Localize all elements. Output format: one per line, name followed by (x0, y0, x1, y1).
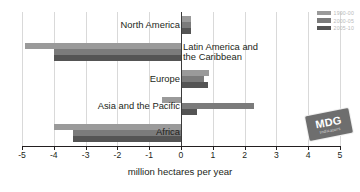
x-axis-tick-label: -1 (145, 150, 153, 160)
x-axis-tick (149, 146, 150, 150)
x-axis-tick-label: -5 (18, 150, 26, 160)
legend-swatch (317, 18, 331, 23)
x-axis-tick (276, 146, 277, 150)
x-axis-tick (54, 146, 55, 150)
category-label: Africa (0, 127, 180, 138)
x-axis-tick (117, 146, 118, 150)
bar (181, 109, 197, 115)
x-axis-tick (86, 146, 87, 150)
x-axis-tick (340, 146, 341, 150)
x-axis-tick (181, 146, 182, 150)
legend-item: 2000-05 (317, 18, 354, 24)
legend: 1990-002000-052005-10 (317, 10, 354, 31)
legend-label: 2000-05 (334, 18, 354, 24)
x-axis-tick (308, 146, 309, 150)
category-label: Latin America and the Caribbean (183, 42, 258, 63)
x-axis-tick-label: -3 (82, 150, 90, 160)
x-axis-tick-label: 2 (242, 150, 247, 160)
x-axis-tick-label: 0 (179, 150, 184, 160)
legend-item: 1990-00 (317, 10, 354, 16)
legend-item: 2005-10 (317, 25, 354, 31)
x-axis-tick (245, 146, 246, 150)
legend-swatch (317, 11, 331, 16)
x-axis-tick-label: -4 (50, 150, 58, 160)
x-axis-tick-label: 4 (306, 150, 311, 160)
x-axis-tick-label: 5 (338, 150, 343, 160)
legend-swatch (317, 26, 331, 31)
x-axis-tick-label: 3 (274, 150, 279, 160)
x-axis-tick-label: 1 (210, 150, 215, 160)
x-axis-tick (22, 146, 23, 150)
bar (54, 55, 181, 61)
x-axis-tick-label: -2 (114, 150, 122, 160)
legend-label: 2005-10 (334, 25, 354, 31)
x-axis-title: million hectares per year (0, 166, 360, 177)
x-axis-tick (213, 146, 214, 150)
category-label: Europe (0, 74, 180, 85)
category-label: North America (0, 20, 180, 31)
chart-container: -5-4-3-2-1012345 million hectares per ye… (0, 0, 360, 192)
legend-label: 1990-00 (334, 10, 354, 16)
bar (181, 82, 208, 88)
zero-axis-line (181, 12, 182, 146)
bar (181, 28, 191, 34)
category-label: Asia and the Pacific (0, 101, 180, 112)
